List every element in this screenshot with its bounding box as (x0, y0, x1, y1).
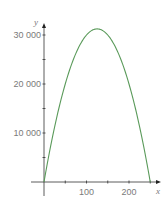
x-axis-label: x (155, 186, 160, 196)
y-axis-label: y (33, 17, 38, 27)
x-tick-label: 100 (79, 187, 94, 197)
y-axis-arrow-icon (42, 23, 46, 28)
chart: 10020010 00020 00030 000 x y (0, 0, 168, 218)
y-tick-label: 10 000 (13, 128, 41, 138)
x-tick-label: 200 (121, 187, 136, 197)
parabola-curve (44, 29, 150, 182)
y-tick-label: 30 000 (13, 30, 41, 40)
y-tick-label: 20 000 (13, 79, 41, 89)
x-axis-arrow-icon (156, 180, 161, 184)
